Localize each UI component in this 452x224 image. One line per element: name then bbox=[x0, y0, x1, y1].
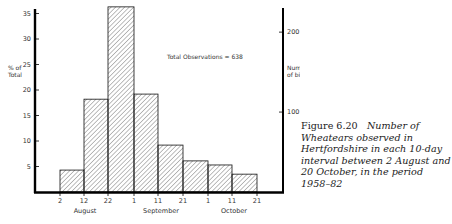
x-tick-label: 1 bbox=[132, 197, 136, 205]
left-axis-ticks: 5101520253035 bbox=[23, 10, 39, 171]
right-axis-title-line2: of birds bbox=[287, 71, 300, 78]
histogram-bar bbox=[134, 94, 158, 192]
left-tick-label: 5 bbox=[27, 163, 31, 171]
histogram-chart: 5101520253035 100200 212221112111121 Aug… bbox=[0, 0, 300, 224]
left-tick-label: 35 bbox=[23, 10, 31, 18]
x-tick-label: 21 bbox=[179, 197, 187, 205]
histogram-bar bbox=[84, 99, 108, 192]
x-axis-ticks: 212221112111121 bbox=[58, 192, 261, 205]
x-tick-label: 1 bbox=[206, 197, 210, 205]
right-tick-label: 200 bbox=[287, 28, 299, 36]
figure-number: Figure 6.20 bbox=[301, 120, 358, 131]
x-tick-label: 2 bbox=[58, 197, 62, 205]
x-tick-label: 11 bbox=[154, 197, 162, 205]
histogram-bar bbox=[60, 170, 84, 192]
histogram-bar bbox=[232, 174, 257, 192]
month-labels: AugustSeptemberOctober bbox=[74, 207, 248, 215]
left-tick-label: 15 bbox=[23, 112, 31, 120]
histogram-bar bbox=[108, 7, 134, 192]
month-label: September bbox=[143, 207, 179, 215]
x-tick-label: 12 bbox=[80, 197, 88, 205]
x-tick-label: 11 bbox=[228, 197, 236, 205]
bars-group bbox=[60, 7, 257, 192]
left-tick-label: 20 bbox=[23, 86, 31, 94]
histogram-bar bbox=[208, 165, 232, 192]
x-tick-label: 21 bbox=[253, 197, 261, 205]
right-tick-label: 100 bbox=[287, 108, 299, 116]
month-label: August bbox=[74, 207, 97, 215]
x-tick-label: 22 bbox=[104, 197, 112, 205]
left-tick-label: 30 bbox=[23, 35, 31, 43]
histogram-bar bbox=[183, 161, 208, 192]
histogram-bar bbox=[158, 145, 183, 192]
total-observations-annotation: Total Observations = 638 bbox=[166, 53, 243, 60]
month-label: October bbox=[221, 207, 247, 215]
left-axis-title-line1: % of bbox=[8, 64, 22, 71]
figure-caption: Figure 6.20 Number of Wheatears observed… bbox=[301, 120, 451, 190]
left-axis-title-line2: Total bbox=[7, 71, 22, 78]
left-tick-label: 25 bbox=[23, 61, 31, 69]
left-tick-label: 10 bbox=[23, 137, 31, 145]
right-axis-title-line1: Number bbox=[287, 64, 300, 71]
